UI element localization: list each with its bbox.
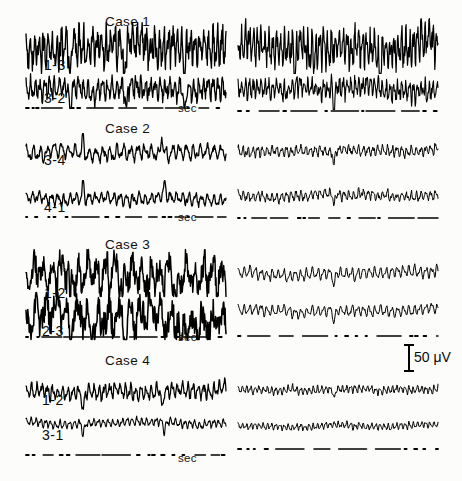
trace-case2-right-3-4 [238, 133, 438, 169]
time-axis-case1-right [238, 106, 438, 116]
trace-case3-right-2-3 [238, 292, 438, 330]
channel-label-case2-3-4: 3-4 [44, 152, 66, 168]
time-axis-case3-right [238, 331, 438, 341]
sec-label-case1-left: sec [178, 102, 197, 114]
sec-label-case3-left: sec [178, 331, 197, 343]
time-axis-case2-right [238, 213, 438, 223]
time-axis-case4-right [238, 444, 438, 454]
calibration-label: 50 μV [414, 349, 451, 365]
channel-label-case4-3-1: 3-1 [42, 427, 64, 443]
trace-case2-right-4-1 [238, 178, 438, 214]
sec-label-case4-left: sec [178, 452, 197, 464]
sec-label-case2-left: sec [178, 211, 197, 223]
case-title-4: Case 4 [105, 353, 150, 368]
trace-case4-right-3-1 [238, 410, 438, 442]
eeg-figure: Case 1 1-3 3-2 sec Case 2 3-4 4-1 sec Ca… [0, 0, 462, 481]
trace-case1-right-3-2 [238, 68, 438, 110]
trace-case1-right-1-3 [238, 18, 438, 74]
trace-case3-right-1-2 [238, 254, 438, 292]
trace-case4-right-1-2 [238, 374, 438, 406]
